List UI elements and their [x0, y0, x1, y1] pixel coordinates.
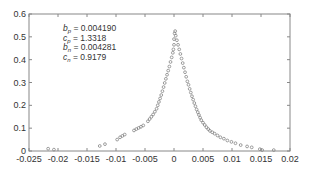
data-point: [188, 87, 191, 90]
parameter-annotations: bp = 0.004190cp = 1.3318bn = 0.004281cn …: [63, 23, 116, 63]
data-point: [234, 142, 237, 145]
data-point: [186, 80, 189, 83]
y-tick-label: 0.4: [13, 55, 26, 65]
data-point: [152, 113, 155, 116]
data-point: [170, 56, 173, 59]
x-tick-label: -0.015: [74, 154, 100, 164]
data-point: [98, 145, 101, 148]
data-point: [178, 48, 181, 51]
data-point: [219, 136, 222, 139]
annotation-c-n: cn = 0.9179: [63, 52, 107, 63]
x-tick-label: 0: [171, 154, 176, 164]
scatter-chart: -0.025-0.02-0.015-0.01-0.00500.0050.010.…: [0, 0, 309, 171]
data-point: [158, 101, 161, 104]
data-point: [198, 114, 201, 117]
x-tick-label: 0.02: [281, 154, 299, 164]
data-point: [192, 98, 195, 101]
y-tick-label: 0.2: [13, 100, 26, 110]
x-tick-label: -0.01: [106, 154, 127, 164]
data-point: [161, 90, 164, 93]
data-point: [104, 143, 107, 146]
y-tick-label: 0.1: [13, 123, 26, 133]
data-point: [191, 95, 194, 98]
data-point: [164, 77, 167, 80]
data-point: [195, 108, 198, 111]
data-point: [162, 86, 165, 89]
y-tick-label: 0: [21, 146, 26, 156]
data-point: [239, 144, 242, 147]
data-point: [156, 104, 159, 107]
data-point: [155, 107, 158, 110]
data-point: [187, 83, 190, 86]
data-point: [213, 132, 216, 135]
data-point: [230, 140, 233, 143]
data-point: [163, 82, 166, 85]
data-point: [182, 66, 185, 69]
data-point: [250, 146, 253, 149]
y-tick-label: 0.5: [13, 32, 26, 42]
data-point: [171, 51, 174, 54]
data-point: [189, 91, 192, 94]
x-tick-label: -0.005: [132, 154, 158, 164]
x-axis: -0.025-0.02-0.015-0.01-0.00500.0050.010.…: [16, 14, 299, 164]
data-point: [172, 48, 175, 51]
data-point: [166, 73, 169, 76]
x-tick-label: 0.01: [223, 154, 241, 164]
y-axis: 00.10.20.30.40.50.6: [13, 9, 290, 156]
data-point: [181, 62, 184, 65]
data-point: [116, 138, 119, 141]
data-point: [216, 134, 219, 137]
data-point: [196, 111, 199, 114]
data-point: [194, 105, 197, 108]
data-point: [47, 147, 50, 150]
data-point: [169, 61, 172, 64]
x-tick-label: -0.02: [48, 154, 69, 164]
data-point: [153, 110, 156, 113]
data-point: [159, 97, 162, 100]
data-point: [193, 102, 196, 105]
data-point: [177, 43, 180, 46]
plot-frame: [29, 14, 290, 151]
data-point: [185, 75, 188, 78]
y-tick-label: 0.6: [13, 9, 26, 19]
data-point: [226, 139, 229, 142]
y-tick-label: 0.3: [13, 78, 26, 88]
data-point: [246, 145, 249, 148]
data-point: [142, 124, 145, 127]
data-point: [168, 65, 171, 68]
data-point: [123, 133, 126, 136]
data-point: [173, 38, 176, 41]
data-point: [180, 57, 183, 60]
data-point: [179, 53, 182, 56]
x-tick-label: 0.015: [250, 154, 273, 164]
data-point: [176, 39, 179, 42]
data-point: [184, 71, 187, 74]
x-tick-label: 0.005: [192, 154, 215, 164]
data-point: [160, 94, 163, 97]
data-point: [222, 137, 225, 140]
data-point: [173, 43, 176, 46]
data-point: [167, 69, 170, 72]
